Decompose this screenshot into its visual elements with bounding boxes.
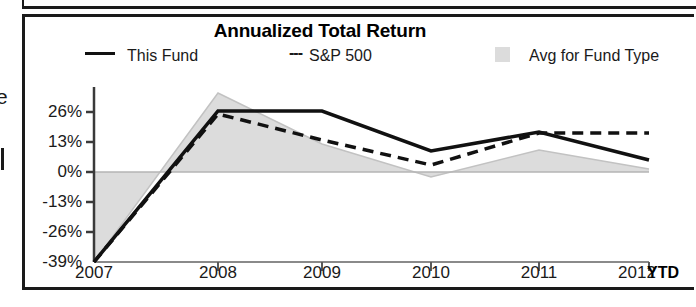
series-area-avg-fund-type (94, 93, 649, 262)
y-axis-label-neg13: -13% (22, 192, 82, 212)
clipped-bar-fragment (1, 148, 4, 170)
y-axis-label-26: 26% (22, 102, 82, 122)
x-axis-label-2008: 2008 (183, 263, 253, 283)
series-line-this-fund (94, 111, 649, 262)
x-axis-label-2011: 2011 (504, 263, 574, 283)
annualized-total-return-chart-panel: Annualized Total Return This Fund ---S&P… (22, 14, 694, 290)
plot-area: 26% 13% 0% -13% -26% -39% 2007 2008 2009… (25, 17, 694, 290)
left-margin-fragments: e (0, 0, 24, 307)
x-axis-label-ytd: YTD (647, 264, 679, 282)
y-axis-label-neg26: -26% (22, 222, 82, 242)
x-axis-label-2007: 2007 (59, 263, 129, 283)
x-axis-label-2009: 2009 (287, 263, 357, 283)
chart-svg (25, 17, 694, 290)
clipped-text-fragment: e (0, 86, 8, 107)
series-line-avg-fund-type (94, 93, 649, 262)
y-axis-label-13: 13% (22, 132, 82, 152)
x-axis-label-2010: 2010 (396, 263, 466, 283)
y-axis-label-0: 0% (22, 162, 82, 182)
series-line-sp500 (94, 114, 649, 262)
panel-above-fragment (22, 0, 696, 9)
